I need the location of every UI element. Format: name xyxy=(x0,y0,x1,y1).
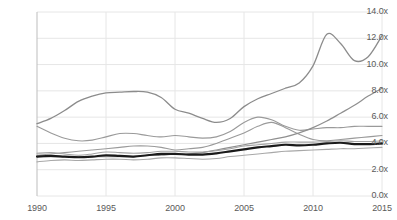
x-axis-tick-label: 2000 xyxy=(155,204,195,213)
x-axis-tick-label: 1995 xyxy=(86,204,126,213)
x-axis-tick-label: 1990 xyxy=(17,204,57,213)
x-axis-tick-label: 2015 xyxy=(362,204,397,213)
x-axis-tick-label: 2005 xyxy=(224,204,264,213)
x-axis-tick-label: 2010 xyxy=(293,204,333,213)
